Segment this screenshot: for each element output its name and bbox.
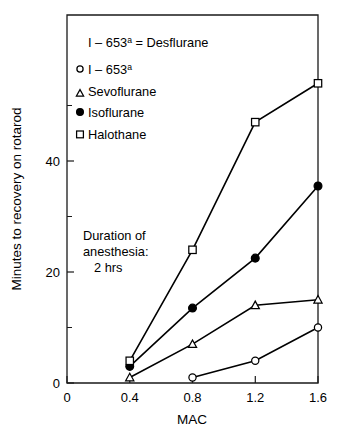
y-axis-title: Minutes to recovery on rotarod [9,107,24,290]
legend-header-main: I – 653 [88,35,127,50]
y-tick-label-0: 0 [53,376,60,391]
y-axis-ticks [67,106,74,384]
legend-item-isoflurane[interactable]: Isoflurane [77,105,145,120]
open-square-marker [126,357,133,364]
svg-text:I – 653a: I – 653a [88,62,132,77]
legend-label-desflurane: I – 653 [88,62,127,77]
series-line [193,328,319,378]
legend-label-desflurane-superscript: a [127,62,132,72]
open-square-marker [189,246,196,253]
series-line [130,83,318,361]
open-square-icon [77,131,84,138]
x-tick-label-0.8: 0.8 [183,390,201,405]
series-i-653 [189,324,322,381]
legend: I – 653a Sevoflurane Isoflurane Halothan… [76,62,156,142]
duration-annotation: Duration of anesthesia: 2 hrs [83,228,148,275]
series-isoflurane [126,182,322,370]
y-axis-tick-labels: 0 20 40 [46,154,60,391]
filled-circle-marker [314,182,322,190]
svg-text:I – 653a = Desflurane: I – 653a = Desflurane [88,35,208,50]
duration-note-line-1: Duration of [83,228,146,243]
x-axis-title: MAC [177,412,207,427]
legend-header-tail: = Desflurane [132,35,208,50]
open-circle-marker [314,324,321,331]
x-tick-label-0: 0 [63,390,70,405]
legend-item-halothane[interactable]: Halothane [77,127,147,142]
duration-note-line-2: anesthesia: [83,244,148,259]
duration-note-line-3: 2 hrs [94,260,122,275]
open-square-marker [252,118,259,125]
x-tick-label-1.6: 1.6 [309,390,327,405]
data-series-layer [126,80,322,381]
legend-item-desflurane[interactable]: I – 653a [77,62,132,77]
y-tick-label-40: 40 [46,154,60,169]
filled-circle-marker [189,304,197,312]
filled-circle-icon [77,109,84,116]
legend-label-halothane: Halothane [88,127,146,142]
open-triangle-icon [76,90,83,96]
x-axis-tick-labels: 0 0.4 0.8 1.2 1.6 [63,390,327,405]
open-triangle-marker [126,373,134,381]
chart-canvas: 0 20 40 Minutes to recovery on rotarod 0… [0,0,338,437]
legend-label-sevoflurane: Sevoflurane [88,84,156,99]
rotarod-recovery-chart: 0 20 40 Minutes to recovery on rotarod 0… [0,0,338,437]
open-triangle-marker [188,340,196,348]
legend-label-isoflurane: Isoflurane [88,105,144,120]
legend-header: I – 653a = Desflurane [88,35,208,50]
open-square-marker [314,80,321,87]
legend-item-sevoflurane[interactable]: Sevoflurane [76,84,156,99]
open-circle-marker [189,374,196,381]
filled-circle-marker [251,254,259,262]
series-sevoflurane [126,296,322,381]
series-line [130,186,318,366]
open-circle-marker [252,357,259,364]
series-halothane [126,80,322,365]
y-tick-label-20: 20 [46,265,60,280]
open-circle-icon [77,66,83,72]
x-tick-label-1.2: 1.2 [246,390,264,405]
x-tick-label-0.4: 0.4 [121,390,139,405]
